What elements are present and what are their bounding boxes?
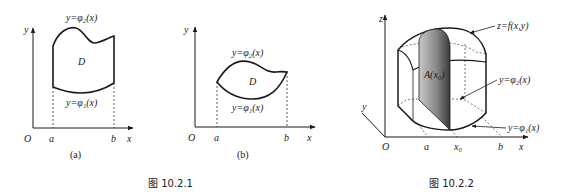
lower-curve-label: y=φ₁(x) [65, 97, 98, 109]
panel-a: y O a b x D y=φ₂(x) y=φ₁(x) (a) [23, 12, 133, 161]
y-axis [362, 113, 385, 137]
tick-x0-label: x₀ [453, 141, 462, 152]
upper-curve-label: y=φ₂(x) [65, 12, 98, 24]
origin-label: O [24, 133, 31, 144]
tick-b-label: b [111, 133, 116, 144]
section-label: A(x₀) [423, 69, 445, 81]
figure-10-2-1-caption: 图 10.2.1 [148, 178, 193, 189]
tick-a-label: a [424, 141, 429, 152]
panel-b: y O a b x D y=φ₂(x) y=φ₁(x) (b) [183, 24, 315, 161]
panel-a-caption: (a) [70, 149, 81, 161]
origin-label: O [382, 141, 389, 152]
origin-label: O [188, 132, 195, 143]
surface-arrow [470, 26, 495, 33]
tick-a-label: a [214, 132, 219, 143]
upper-curve-label: y=φ₂(x) [498, 74, 531, 86]
tick-a-label: a [49, 133, 54, 144]
y-axis-label: y [23, 24, 29, 35]
z-axis-label: z [378, 13, 383, 24]
figure-10-2-2: z y O a x₀ b x z=f(x,y) A(x₀) y=φ₂(x) y=… [361, 13, 540, 152]
upper-curve-label: y=φ₂(x) [231, 47, 264, 59]
tick-b-label: b [284, 132, 289, 143]
lower-curve-label: y=φ₁(x) [231, 102, 264, 114]
region-label: D [77, 56, 86, 67]
figure-canvas: y O a b x D y=φ₂(x) y=φ₁(x) (a) y O a b … [0, 0, 567, 194]
tick-b-label: b [498, 141, 503, 152]
y-axis-label: y [361, 101, 367, 112]
surface-label: z=f(x,y) [496, 20, 529, 32]
y-axis-label: y [183, 24, 189, 35]
lower-curve-arrow [472, 126, 506, 128]
dashed-x0 [451, 130, 457, 137]
panel-b-caption: (b) [237, 149, 249, 161]
figure-10-2-2-caption: 图 10.2.2 [429, 178, 474, 189]
x-axis-label: x [306, 132, 312, 143]
region-label: D [248, 76, 257, 87]
x-axis-label: x [518, 141, 524, 152]
lower-curve-label: y=φ₁(x) [507, 122, 540, 134]
x-axis-label: x [126, 133, 132, 144]
